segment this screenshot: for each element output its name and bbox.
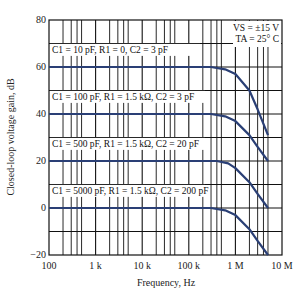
x-axis-ticks: 1001 k10 k100 k1 M10 M (42, 260, 293, 271)
x-tick-label: 10 k (133, 260, 151, 271)
gain-frequency-chart: C1 = 10 pF, R1 = 0, C2 = 3 pFC1 = 100 pF… (0, 0, 303, 295)
y-tick-label: 40 (36, 108, 46, 119)
x-tick-label: 1 k (89, 260, 102, 271)
x-axis-label: Frequency, Hz (137, 277, 196, 288)
y-tick-label: 60 (36, 61, 46, 72)
y-axis-label: Closed-loop voltage gain, dB (5, 78, 16, 196)
condition-text: TA = 25° C (236, 34, 280, 44)
x-tick-label: 100 k (178, 260, 201, 271)
curve-label: C1 = 500 pF, R1 = 1.5 kΩ, C2 = 20 pF (52, 139, 199, 149)
y-tick-label: 80 (36, 14, 46, 25)
curve-label: C1 = 5000 pF, R1 = 1.5 kΩ, C2 = 200 pF (52, 186, 208, 196)
x-tick-label: 1 M (227, 260, 244, 271)
x-tick-label: 10 M (271, 260, 293, 271)
y-tick-label: 0 (41, 202, 46, 213)
curve-label: C1 = 100 pF, R1 = 1.5 kΩ, C2 = 3 pF (52, 92, 194, 102)
y-tick-label: −20 (30, 249, 46, 260)
curve-label: C1 = 10 pF, R1 = 0, C2 = 3 pF (52, 45, 168, 55)
y-axis-ticks: 806040200−20 (30, 14, 46, 260)
condition-text: VS = ±15 V (233, 23, 279, 33)
x-tick-label: 100 (42, 260, 57, 271)
conditions-box: VS = ±15 VTA = 25° C (233, 21, 281, 47)
y-tick-label: 20 (36, 155, 46, 166)
